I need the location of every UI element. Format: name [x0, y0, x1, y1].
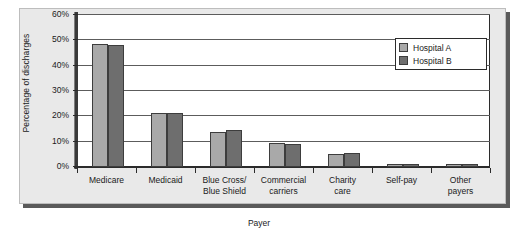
legend-label-hospital-b: Hospital B	[413, 56, 452, 66]
x-tick-mark	[372, 168, 373, 173]
x-axis-title: Payer	[0, 218, 518, 228]
chart-figure: Percentage of discharges 0%10%20%30%40%5…	[0, 0, 518, 242]
x-tick-mark	[195, 168, 196, 173]
bar	[462, 164, 478, 167]
y-tick-label: 50%	[29, 34, 69, 44]
legend-item-hospital-a[interactable]: Hospital A	[399, 41, 483, 54]
bar	[167, 113, 183, 167]
bar	[285, 144, 301, 167]
y-tick-label: 0%	[29, 161, 69, 171]
bar	[387, 164, 403, 167]
y-tick-label: 60%	[29, 9, 69, 19]
chart-legend: Hospital A Hospital B	[395, 38, 487, 70]
bar	[446, 164, 462, 167]
bar	[328, 154, 344, 167]
x-tick-mark	[490, 168, 491, 173]
x-tick-mark	[254, 168, 255, 173]
x-tick-mark	[136, 168, 137, 173]
bar	[151, 113, 167, 167]
y-tick-label: 40%	[29, 60, 69, 70]
bar	[344, 153, 360, 167]
y-tick-label: 10%	[29, 136, 69, 146]
bar	[403, 164, 419, 167]
x-tick-mark	[313, 168, 314, 173]
legend-swatch-icon-hospital-a	[399, 43, 408, 52]
bar	[226, 130, 242, 167]
bar	[210, 132, 226, 167]
x-tick-mark	[431, 168, 432, 173]
legend-item-hospital-b[interactable]: Hospital B	[399, 54, 483, 67]
x-tick-mark	[77, 168, 78, 173]
bar	[108, 45, 124, 167]
bar	[269, 143, 285, 167]
y-tick-label: 20%	[29, 110, 69, 120]
bar	[92, 44, 108, 167]
legend-swatch-icon-hospital-b	[399, 56, 408, 65]
x-category-label: Otherpayers	[421, 175, 501, 197]
y-tick-label: 30%	[29, 85, 69, 95]
legend-label-hospital-a: Hospital A	[413, 43, 451, 53]
